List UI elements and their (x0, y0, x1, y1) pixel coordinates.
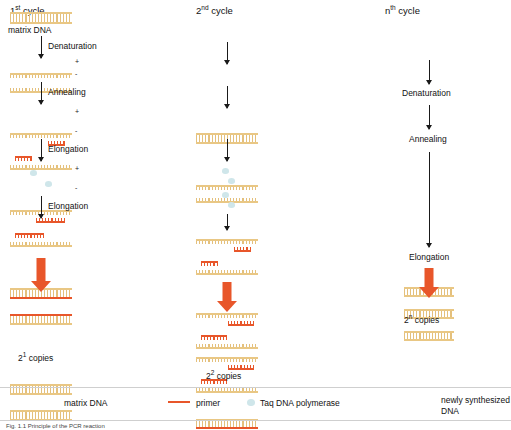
step-label-elongation-1b: Elongation (48, 201, 88, 211)
arrow-denaturation-1 (41, 36, 42, 58)
legend-swatch-taq-polymerase (247, 399, 255, 406)
extending-primer-minus-1 (15, 233, 44, 238)
annealed-strand-minus-1 (10, 165, 72, 170)
step-label-elongation-1a: Elongation (48, 144, 88, 154)
strand-2a (196, 185, 258, 190)
strand-2b (196, 198, 258, 203)
annealed-strand-plus-1 (10, 133, 72, 138)
strand-2e (196, 313, 258, 318)
result-label-1: 21 copies (18, 350, 53, 363)
result-label-2: 22 copies (206, 368, 241, 381)
orange-arrow-1 (31, 258, 51, 292)
primer-2c (228, 321, 254, 326)
arrow-3a (429, 60, 430, 84)
single-strand-plus-1 (10, 73, 72, 78)
new-duplex-1b (10, 314, 72, 325)
legend-divider-bottom (0, 420, 511, 421)
arrow-annealing-1 (41, 82, 42, 104)
step-label-denaturation-3: Denaturation (402, 88, 451, 98)
strand-sign-plus-2: + (75, 108, 79, 115)
taq-polymerase-blob-1 (30, 170, 37, 176)
strand-sign-plus-3: + (75, 165, 79, 172)
primer-on-minus-strand-1 (15, 156, 32, 161)
legend-label-matrix-dna: matrix DNA (64, 398, 107, 408)
arrow-2a (227, 42, 228, 64)
arrow-elongation-1b (41, 196, 42, 218)
arrow-3b (429, 105, 430, 129)
strand-2f (196, 344, 258, 349)
strand-2c (196, 239, 258, 244)
primer-2b (201, 261, 218, 266)
legend-label-taq-polymerase: Taq DNA polymerase (260, 398, 340, 408)
step-label-denaturation-1: Denaturation (48, 41, 97, 51)
step-label-annealing-1: Annealing (48, 87, 86, 97)
orange-arrow-3 (419, 268, 439, 298)
taq-polymerase-blob-5 (222, 192, 229, 198)
step-label-elongation-3: Elongation (409, 252, 449, 262)
step-label-annealing-3: Annealing (409, 134, 447, 144)
legend-label-primer: primer (196, 398, 220, 408)
column-title-2: 2nd cycle (196, 4, 233, 16)
elongating-strand-minus-1 (10, 242, 72, 247)
strand-sign-minus-3: - (75, 184, 77, 191)
strand-sign-minus-1: - (75, 70, 77, 77)
figure-caption: Fig. 1.1 Principle of the PCR reaction (6, 423, 105, 429)
strand-sign-minus-2: - (75, 127, 77, 134)
column-title-3: nth cycle (385, 4, 420, 16)
arrow-2c (227, 139, 228, 161)
primer-2d (201, 335, 227, 340)
taq-polymerase-blob-6 (228, 202, 235, 208)
legend-swatch-primer (168, 401, 190, 403)
legend-divider-top (0, 387, 511, 388)
arrow-3c (429, 152, 430, 247)
taq-polymerase-blob-3 (222, 168, 229, 174)
strand-2d (196, 270, 258, 275)
arrow-2d (227, 214, 228, 230)
matrix-dna-label: matrix DNA (8, 25, 51, 35)
primer-2a (234, 247, 251, 252)
taq-polymerase-blob-4 (228, 178, 235, 184)
result-duplex-1a (10, 384, 72, 395)
legend-label-new-dna-line1: newly synthesized (441, 395, 510, 405)
legend-label-new-dna-line2: DNA (441, 406, 459, 416)
arrow-2b (227, 86, 228, 108)
result-label-3: 2n copies (404, 312, 439, 325)
arrow-elongation-1a (41, 139, 42, 161)
orange-arrow-2 (217, 282, 237, 312)
matrix-dna-duplex-1 (10, 12, 72, 24)
strand-sign-plus-1: + (75, 58, 79, 65)
matrix-stack-3c (404, 331, 454, 341)
taq-polymerase-blob-2 (45, 181, 52, 187)
strand-2g (196, 357, 258, 362)
strand-2h (196, 388, 258, 393)
